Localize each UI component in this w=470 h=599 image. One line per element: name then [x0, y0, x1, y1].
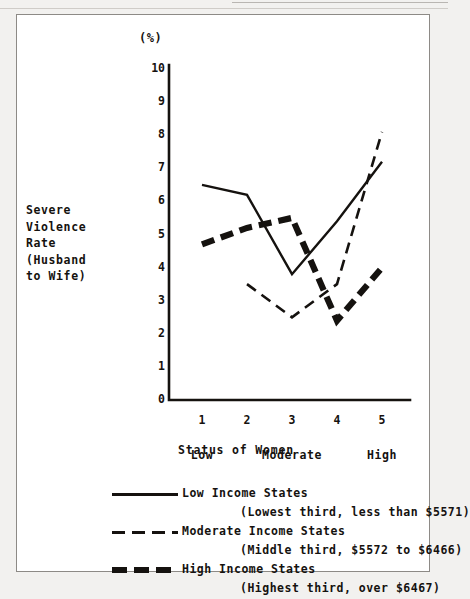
y-tick-label: 8 [139, 127, 165, 141]
x-tick-label: 5 [369, 413, 395, 427]
y-tick-label: 4 [139, 260, 165, 274]
x-tick-label: 1 [189, 413, 215, 427]
legend-label: Moderate Income States [182, 524, 345, 538]
y-axis-caption: Severe Violence Rate (Husband to Wife) [26, 202, 86, 285]
chart-legend: Low Income States(Lowest third, less tha… [112, 486, 412, 599]
y-tick-label: 0 [139, 392, 165, 406]
y-tick-label: 9 [139, 94, 165, 108]
x-axis-title: Status of Women [178, 443, 294, 457]
y-tick-label: 6 [139, 193, 165, 207]
scan-artifact-line-2 [0, 8, 448, 9]
legend-swatch-solid [112, 493, 178, 496]
legend-sublabel: (Highest third, over $6467) [112, 581, 412, 599]
legend-sublabel: (Lowest third, less than $5571) [112, 505, 412, 524]
x-category-label: High [337, 448, 427, 462]
y-tick-label: 2 [139, 326, 165, 340]
y-tick-label: 7 [139, 160, 165, 174]
legend-entry: Low Income States [112, 486, 412, 505]
unit-label: (%) [139, 31, 162, 45]
x-tick-label: 4 [324, 413, 350, 427]
y-tick-label: 3 [139, 293, 165, 307]
y-tick-label: 10 [139, 61, 165, 75]
legend-label: High Income States [182, 562, 316, 576]
x-tick-label: 2 [234, 413, 260, 427]
x-tick-label: 3 [279, 413, 305, 427]
scan-artifact-line [232, 2, 448, 3]
legend-entry: High Income States [112, 562, 412, 581]
y-tick-label: 5 [139, 227, 165, 241]
legend-swatch-dash [112, 531, 178, 534]
legend-sublabel: (Middle third, $5572 to $6466) [112, 543, 412, 562]
legend-label: Low Income States [182, 486, 308, 500]
y-tick-label: 1 [139, 359, 165, 373]
legend-entry: Moderate Income States [112, 524, 412, 543]
legend-swatch-thick [112, 567, 178, 573]
